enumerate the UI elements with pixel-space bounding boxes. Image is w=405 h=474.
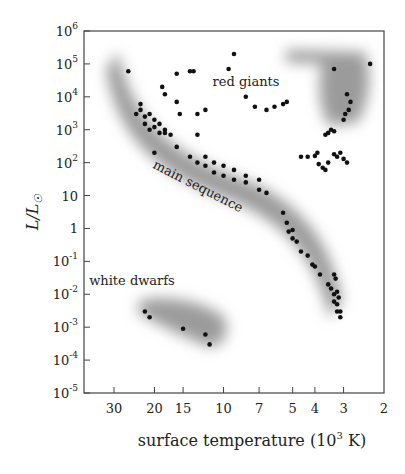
star-point (305, 253, 310, 258)
star-point (341, 157, 346, 162)
star-point (212, 170, 217, 175)
star-point (244, 95, 249, 100)
star-point (305, 155, 310, 160)
y-tick-label: 10-3 (53, 317, 79, 335)
x-tick-label: 7 (255, 401, 263, 416)
star-point (332, 272, 337, 277)
y-tick-label: 1 (70, 221, 78, 236)
star-point (221, 173, 226, 178)
y-tick-label: 103 (56, 120, 79, 138)
star-point (174, 100, 179, 105)
star-point (152, 150, 157, 155)
star-point (253, 104, 258, 109)
star-point (323, 168, 328, 173)
star-point (152, 118, 157, 123)
star-point (143, 122, 148, 127)
red-giants-label: red giants (213, 74, 280, 89)
star-point (346, 108, 351, 113)
star-point (338, 315, 343, 320)
star-point (335, 302, 340, 307)
star-point (336, 295, 341, 300)
star-point (203, 155, 208, 160)
star-point (147, 127, 152, 132)
star-point (281, 211, 286, 216)
star-point (174, 145, 179, 150)
star-point (138, 108, 143, 113)
star-point (299, 249, 304, 254)
star-point (178, 112, 183, 117)
star-point (299, 155, 304, 160)
star-point (195, 133, 200, 138)
star-point (257, 188, 262, 193)
star-point (326, 282, 331, 287)
star-point (315, 150, 320, 155)
x-tick-label: 10 (215, 401, 232, 416)
star-point (257, 178, 262, 183)
star-point (332, 67, 337, 72)
star-point (232, 168, 237, 173)
star-point (335, 155, 340, 160)
star-point (285, 220, 290, 225)
star-point (152, 125, 157, 130)
star-point (323, 133, 328, 138)
star-point (313, 264, 318, 269)
x-tick-label: 5 (289, 401, 297, 416)
star-point (232, 178, 237, 183)
star-point (333, 276, 338, 281)
x-tick-label: 20 (146, 401, 163, 416)
star-point (207, 342, 212, 347)
star-point (126, 69, 131, 74)
star-point (203, 164, 208, 169)
star-point (290, 228, 295, 233)
star-point (195, 160, 200, 165)
star-point (195, 112, 200, 117)
x-tick-label: 4 (311, 401, 319, 416)
star-point (316, 162, 321, 167)
star-point (203, 108, 208, 113)
star-point (181, 326, 186, 331)
x-tick-label: 15 (175, 401, 192, 416)
star-point (272, 104, 277, 109)
star-point (335, 289, 340, 294)
star-point (160, 85, 165, 90)
y-tick-label: 102 (56, 153, 78, 171)
x-tick-label: 2 (380, 401, 388, 416)
star-point (163, 92, 168, 97)
hr-diagram: 10610510410310210110-110-210-310-410-5 3… (0, 0, 405, 474)
white-dwarfs-region (138, 298, 227, 347)
star-point (244, 173, 249, 178)
star-point (174, 72, 179, 77)
y-axis-title: L/L☉ (23, 193, 45, 232)
x-tick-label: 3 (339, 401, 347, 416)
star-point (294, 239, 299, 244)
star-point (134, 112, 139, 117)
star-point (326, 160, 331, 165)
star-point (285, 100, 290, 105)
star-point (338, 150, 343, 155)
star-point (168, 133, 173, 138)
star-point (147, 112, 152, 117)
star-point (188, 155, 193, 160)
star-point (368, 62, 373, 67)
star-point (232, 52, 237, 57)
star-point (221, 164, 226, 169)
star-point (345, 160, 350, 165)
star-point (318, 272, 323, 277)
star-point (290, 236, 295, 241)
star-point (143, 309, 148, 314)
y-tick-label: 104 (56, 87, 79, 105)
star-point (329, 286, 334, 291)
y-tick-label: 106 (56, 21, 79, 39)
star-point (191, 69, 196, 74)
star-point (264, 191, 269, 196)
red-giants-region (286, 50, 369, 126)
star-point (163, 131, 168, 136)
y-tick-label: 10 (61, 189, 78, 204)
y-tick-label: 10-1 (53, 251, 78, 269)
y-tick-label: 10-5 (53, 383, 79, 401)
star-point (226, 67, 231, 72)
x-axis-title: surface temperature (103 K) (138, 430, 366, 450)
y-tick-label: 105 (56, 54, 79, 72)
star-point (138, 102, 143, 107)
x-tick-label: 30 (106, 401, 123, 416)
